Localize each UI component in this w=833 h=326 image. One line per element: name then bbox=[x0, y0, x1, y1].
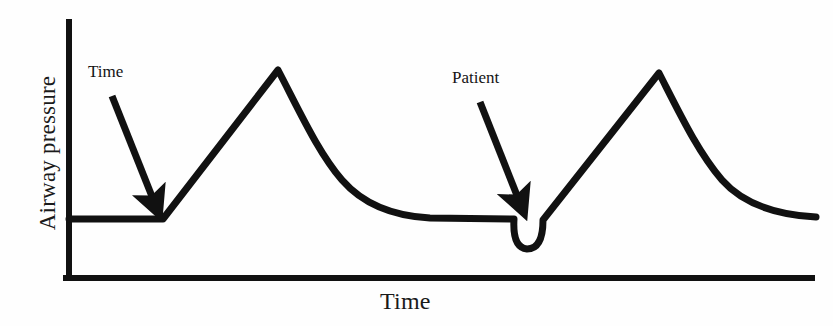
waveform-plot bbox=[0, 0, 833, 326]
airway-pressure-figure: Airway pressure Time Time Patient bbox=[0, 0, 833, 326]
patient-annotation-arrow bbox=[480, 102, 520, 203]
x-axis-label: Time bbox=[380, 288, 431, 315]
time-annotation-arrow bbox=[112, 96, 155, 204]
patient-annotation-label: Patient bbox=[452, 68, 499, 88]
time-annotation-label: Time bbox=[88, 62, 123, 82]
airway-pressure-curve bbox=[69, 70, 816, 249]
y-axis-label: Airway pressure bbox=[35, 58, 61, 248]
